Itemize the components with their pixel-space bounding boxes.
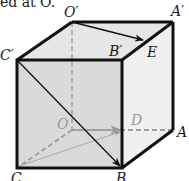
label-C: C bbox=[11, 171, 22, 181]
label-A-prime: A′ bbox=[171, 4, 184, 18]
label-C-prime: C′ bbox=[0, 48, 14, 62]
label-O-prime: O′ bbox=[64, 5, 79, 19]
cube-diagram: ed at O. O′ A′ C′ bbox=[0, 0, 189, 181]
cube-figure bbox=[0, 0, 189, 181]
label-B-prime: B′ bbox=[109, 44, 122, 58]
label-A: A bbox=[177, 125, 187, 139]
label-O: O bbox=[57, 117, 68, 131]
label-D: D bbox=[131, 113, 142, 127]
label-B: B bbox=[116, 171, 126, 181]
label-E: E bbox=[147, 45, 157, 59]
